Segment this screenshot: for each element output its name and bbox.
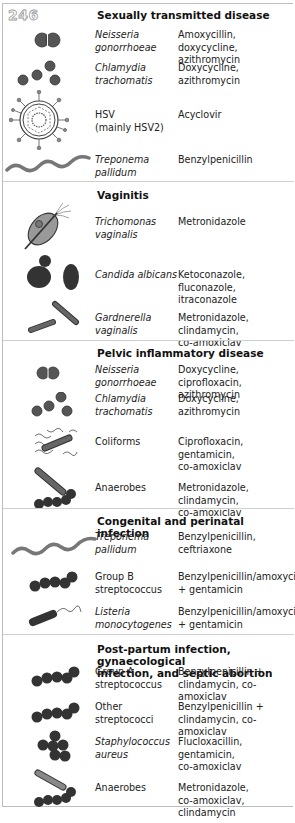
treatment: Benzylpenicillin/amoxycillin + gentamici…: [178, 571, 295, 596]
organism-name: Treponema pallidum: [95, 531, 149, 556]
chlamydia-icon: [17, 60, 77, 88]
anaerobes-icon: [33, 769, 78, 809]
treatment: Metronidazole, co-amoxiclav, clindamycin: [178, 782, 295, 820]
organism-name: Treponema pallidum: [95, 154, 149, 179]
organism-name: Candida albicans: [95, 269, 177, 282]
treatment: Amoxycillin, doxycycline, azithromycin: [178, 29, 295, 67]
treatment: Doxycycline, azithromycin: [178, 62, 295, 87]
treatment: Ciprofloxacin, gentamicin, co-amoxiclav: [178, 436, 295, 474]
organism-name: Chlamydia trachomatis: [95, 62, 152, 87]
treatment: Metronidazole, clindamycin, co-amoxiclav: [178, 312, 295, 350]
streptococcus-chain-icon: [27, 569, 82, 593]
treatment: Benzylpenicillin: [178, 154, 295, 167]
rod-bacteria-icon: [27, 300, 82, 336]
organism-name: Group A streptococcus: [95, 666, 162, 691]
candida-yeast-icon: [25, 253, 85, 293]
organism-name: Other streptococci: [95, 701, 153, 726]
organism-name: Gardnerella vaginalis: [95, 312, 151, 337]
treatment: Benzylpenicillin, ceftriaxone: [178, 531, 295, 556]
organism-name: Anaerobes: [95, 482, 146, 495]
treatment: Metronidazole, clindamycin, co-amoxiclav: [178, 482, 295, 520]
herpes-virus-icon: [9, 90, 69, 150]
section-title-std: Sexually transmitted disease: [97, 9, 270, 21]
treatment: Acyclovir: [178, 109, 295, 122]
treatment: Benzylpenicillin + clindamycin, co-amoxi…: [178, 701, 295, 739]
streptococcus-chain-icon: [29, 700, 84, 724]
section-divider: [3, 340, 294, 341]
treatment: Ketoconazole, fluconazole, itraconazole: [178, 269, 295, 307]
diplococcus-icon: [33, 364, 73, 384]
section-divider: [3, 508, 294, 509]
staphylococcus-cluster-icon: [35, 730, 77, 764]
organism-name: Listeria monocytogenes: [95, 606, 172, 631]
anaerobes-icon: [33, 466, 78, 511]
treatment: Benzylpenicillin/amoxycillin + gentamici…: [178, 606, 295, 631]
section-title-vaginitis: Vaginitis: [97, 189, 149, 201]
flagellated-rod-icon: [33, 428, 78, 458]
page-number: 246: [8, 7, 39, 23]
organism-name: Neisseria gonorrhoeae: [95, 364, 156, 389]
treatment: Doxycycline, azithromycin: [178, 393, 295, 418]
organism-name: HSV (mainly HSV2): [95, 109, 164, 134]
organism-name: Neisseria gonorrhoeae: [95, 29, 156, 54]
streptococcus-chain-icon: [29, 664, 84, 688]
figure-frame: 246 Sexually transmitted disease Neisser…: [2, 3, 293, 807]
chlamydia-icon: [31, 392, 81, 420]
listeria-icon: [27, 604, 85, 628]
section-divider: [3, 634, 294, 635]
organism-name: Anaerobes: [95, 782, 146, 795]
organism-name: Coliforms: [95, 436, 140, 449]
section-divider: [3, 181, 294, 182]
diplococcus-icon: [23, 30, 73, 54]
treatment: Flucloxacillin, gentamicin, co-amoxiclav: [178, 736, 295, 774]
organism-name: Staphylococcus aureus: [95, 736, 170, 761]
treatment: Benzylpenicillin + clindamycin, co-amoxi…: [178, 666, 295, 704]
trichomonas-icon: [17, 201, 72, 253]
organism-name: Chlamydia trachomatis: [95, 393, 152, 418]
section-title-pid: Pelvic inflammatory disease: [97, 347, 264, 359]
spirochete-icon: [9, 531, 97, 557]
organism-name: Trichomonas vaginalis: [95, 216, 156, 241]
organism-name: Group B streptococcus: [95, 571, 162, 596]
spirochete-icon: [5, 150, 95, 176]
treatment: Metronidazole: [178, 216, 295, 229]
